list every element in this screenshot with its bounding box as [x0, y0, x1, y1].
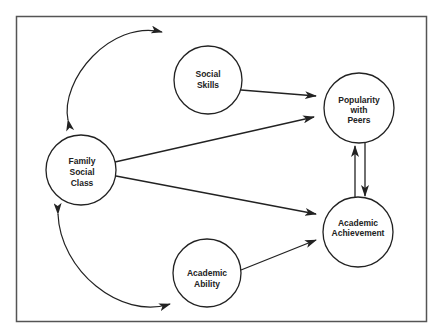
edge-family-to-achievement: [116, 176, 316, 214]
curve-family-social-skills: [67, 30, 162, 120]
path-diagram: Social Skills Popularity with Peers Fami…: [0, 0, 442, 335]
node-popularity-with-peers: Popularity with Peers: [324, 73, 394, 143]
node-label: Academic: [187, 268, 227, 278]
node-label: Family: [69, 156, 96, 166]
node-academic-achievement: Academic Achievement: [323, 197, 393, 267]
node-label: Class: [71, 178, 94, 188]
node-social-skills: Social Skills: [174, 46, 242, 114]
node-label: Skills: [197, 80, 219, 90]
node-label: Achievement: [332, 228, 385, 238]
node-label: Academic: [338, 218, 378, 228]
node-label: Social: [69, 167, 94, 177]
node-label: Ability: [194, 279, 220, 289]
node-academic-ability: Academic Ability: [173, 239, 241, 307]
edge-family-to-popularity: [115, 117, 314, 162]
node-label: Social: [195, 69, 220, 79]
node-family-social-class: Family Social Class: [46, 135, 116, 205]
edge-social-skills-to-popularity: [241, 90, 316, 96]
curve-family-ability: [58, 214, 170, 307]
node-label: Popularity: [338, 95, 380, 105]
node-label: with: [350, 105, 368, 115]
node-label: Peers: [347, 115, 370, 125]
edge-ability-to-achievement: [241, 240, 316, 270]
